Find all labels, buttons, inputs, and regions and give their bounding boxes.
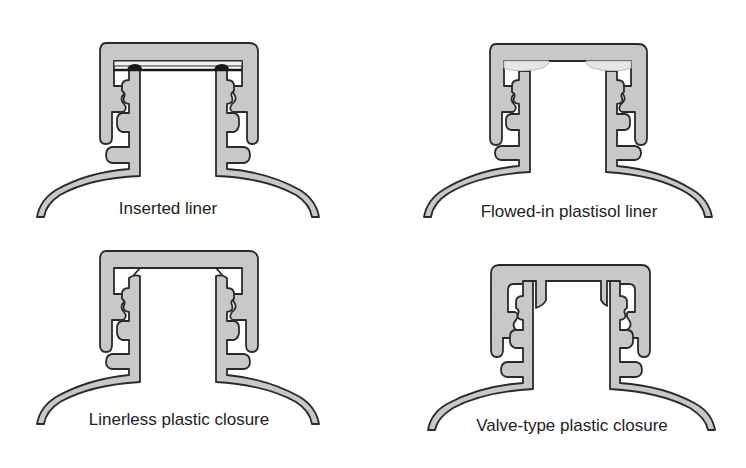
panel-inserted-liner: Inserted liner: [0, 0, 373, 234]
panel-flowed-in-plastisol-liner: Flowed-in plastisol liner: [373, 0, 746, 234]
caption-valve-type-plastic-closure: Valve-type plastic closure: [476, 417, 668, 434]
bottle-left-wall: [424, 71, 530, 217]
bottle-right-wall: [606, 71, 712, 217]
flowed-in-liner-drawing: [373, 0, 746, 234]
plastisol-liner-right: [586, 61, 631, 71]
panel-linerless-plastic-closure: Linerless plastic closure: [0, 234, 373, 468]
linerless-closure-drawing: [0, 234, 373, 468]
panel-valve-type-plastic-closure: Valve-type plastic closure: [373, 234, 746, 468]
closure-diagram-figure: Inserted liner Flowed-in plastisol liner: [0, 0, 746, 468]
bottle-left-wall: [428, 281, 533, 430]
caption-flowed-in-plastisol-liner: Flowed-in plastisol liner: [481, 203, 658, 220]
bottle-right-wall: [216, 67, 319, 218]
caption-linerless-plastic-closure: Linerless plastic closure: [89, 411, 269, 428]
plastisol-liner-left: [504, 61, 549, 71]
bottle-left-wall: [37, 275, 140, 424]
bottle-left-wall: [37, 67, 140, 218]
bottle-right-wall: [216, 275, 319, 424]
bottle-right-wall: [610, 281, 715, 430]
caption-inserted-liner: Inserted liner: [119, 200, 217, 217]
